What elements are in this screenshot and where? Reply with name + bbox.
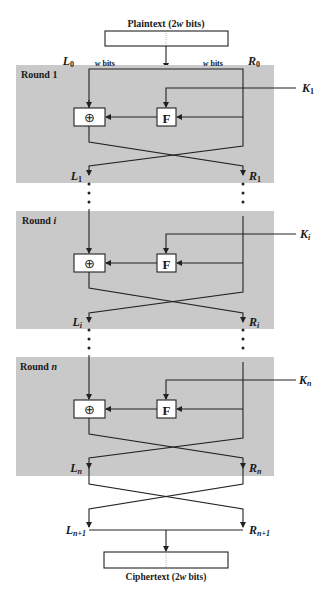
- final-swap-left: [89, 468, 243, 527]
- plaintext-block: [105, 31, 228, 46]
- feistel-diagram: Plaintext (2w bits) L0 R0 w bits w bits …: [0, 0, 333, 601]
- round-1-f-label: F: [163, 111, 171, 126]
- round-i-title: Round i: [22, 215, 56, 226]
- round-n-panel: [16, 357, 274, 476]
- xor-icon: ⊕: [84, 256, 95, 271]
- round-1-title: Round 1: [21, 69, 57, 80]
- continuation-dots-1: [88, 183, 245, 204]
- round-n-key-label: Kn: [298, 373, 312, 388]
- round-i-f-label: F: [163, 257, 171, 272]
- round-n-title: Round n: [20, 361, 57, 372]
- ciphertext-label: Ciphertext (2w bits): [126, 572, 207, 583]
- round-1-key-label: K1: [301, 81, 314, 96]
- xor-icon: ⊕: [84, 110, 95, 125]
- left-half-width-label: w bits: [95, 59, 115, 68]
- continuation-dots-2: [88, 329, 245, 350]
- final-right-label: Rn+1: [248, 523, 270, 538]
- final-swap-right: [89, 468, 243, 527]
- final-left-label: Ln+1: [65, 523, 86, 538]
- right-half-width-label: w bits: [203, 59, 223, 68]
- round-i-key-label: Ki: [299, 227, 311, 242]
- final-swap: Ln+1 Rn+1: [65, 468, 270, 551]
- r0-label: R0: [247, 54, 260, 69]
- xor-icon: ⊕: [84, 402, 95, 417]
- plaintext-label: Plaintext (2w bits): [127, 18, 204, 30]
- l0-label: L0: [62, 54, 74, 69]
- round-n-f-label: F: [163, 403, 171, 418]
